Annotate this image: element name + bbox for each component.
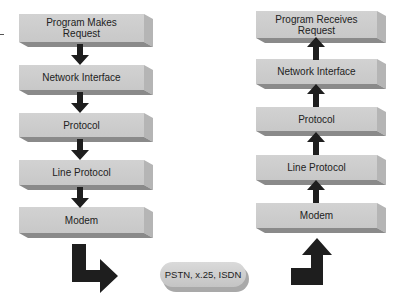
arrow-down-icon — [70, 139, 90, 161]
box-label: Protocol — [298, 114, 335, 125]
box-modem: Modem — [19, 207, 153, 238]
arrow-up-icon — [306, 132, 326, 156]
box-label: Network Interface — [42, 72, 120, 83]
box-label: Protocol — [63, 120, 100, 131]
box-protocol: Protocol — [19, 113, 153, 142]
box-label: Request — [63, 28, 100, 39]
arrow-down-icon — [70, 187, 90, 209]
box-label: Network Interface — [277, 66, 355, 77]
box-program-makes-request: Program MakesRequest — [19, 14, 153, 47]
arrow-up-icon — [306, 37, 326, 61]
box-label: Line Protocol — [52, 167, 110, 178]
network-medium: PSTN, x.25, ISDN — [160, 262, 248, 292]
box-label: Program Receives — [275, 14, 357, 25]
margin-mark — [0, 34, 4, 35]
box-network-interface: Network Interface — [19, 65, 153, 95]
box-label: Modem — [300, 210, 333, 221]
box-label: Modem — [65, 215, 98, 226]
box-modem: Modem — [256, 203, 386, 233]
arrow-down-right-icon — [72, 244, 122, 294]
box-label: Line Protocol — [287, 162, 345, 173]
box-label: Program Makes — [46, 17, 117, 28]
arrow-down-icon — [70, 92, 90, 114]
box-label: Request — [298, 25, 335, 36]
arrow-up-icon — [306, 180, 326, 204]
arrow-down-icon — [70, 44, 90, 66]
arrow-right-up-icon — [291, 238, 341, 286]
network-label: PSTN, x.25, ISDN — [165, 269, 242, 280]
box-line-protocol: Line Protocol — [19, 160, 153, 190]
arrow-up-icon — [306, 84, 326, 108]
